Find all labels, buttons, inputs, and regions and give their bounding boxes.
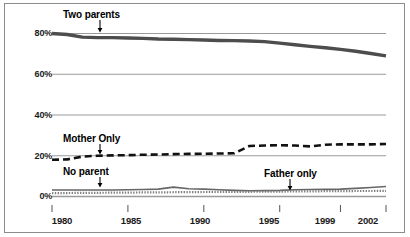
x-axis-ticks: [52, 205, 386, 212]
arrow-head-two-parents: [98, 28, 103, 33]
chart-figure: 80% 60% 40% 20% 0% 1980 1985 1990 1995 1…: [0, 0, 410, 237]
arrow-head-no-parent: [98, 183, 103, 188]
chart-plot-area: [0, 0, 410, 237]
gridlines: [52, 34, 386, 197]
arrow-head-mother-only: [98, 150, 103, 155]
series-line-father-only: [52, 191, 386, 193]
series-line-two-parents: [52, 34, 386, 56]
series-layer: [52, 34, 386, 194]
annotation-arrows: [98, 20, 293, 191]
series-line-mother-only: [52, 144, 386, 160]
